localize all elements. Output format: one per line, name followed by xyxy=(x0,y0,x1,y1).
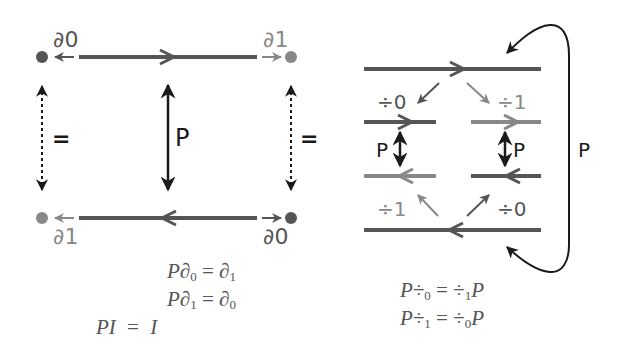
label-bottom-right-d0: ∂0 xyxy=(263,224,288,249)
equation-1: P∂0 = ∂1 xyxy=(88,260,236,288)
equation-4: P÷0 = ÷1P xyxy=(400,279,484,307)
bottom-right-vertex xyxy=(285,212,297,224)
label-top-left-face: ÷0 xyxy=(377,90,406,114)
label-center-p: P xyxy=(175,124,189,152)
equation-2: P∂1 = ∂0 xyxy=(88,288,236,316)
eq1-rhs-sub: 1 xyxy=(230,269,237,284)
label-top-right-d1: ∂1 xyxy=(263,27,288,52)
eq3-equals: = xyxy=(127,315,139,339)
bottom-right-face-arrow xyxy=(467,195,489,216)
bottom-left-face-arrow xyxy=(418,195,438,216)
label-left-equal: = xyxy=(52,126,70,151)
label-bottom-right-face: ÷0 xyxy=(497,197,526,221)
label-bottom-left-d1: ∂1 xyxy=(53,224,78,249)
left-equations: P∂0 = ∂1 P∂1 = ∂0 PI = I xyxy=(88,260,236,338)
eq4-lhs-sub: 0 xyxy=(424,288,431,303)
right-diagram xyxy=(364,25,569,272)
label-right-equal: = xyxy=(300,126,318,151)
eq5-lhs: P÷ xyxy=(400,306,424,330)
bottom-left-vertex xyxy=(36,212,48,224)
label-left-swap-p: P xyxy=(376,138,388,162)
eq1-equals: = xyxy=(202,259,214,283)
eq2-rhs: ∂ xyxy=(219,287,229,311)
eq1-lhs: P∂ xyxy=(167,259,190,283)
eq2-lhs-sub: 1 xyxy=(190,297,197,312)
eq1-lhs-sub: 0 xyxy=(190,269,197,284)
label-top-right-face: ÷1 xyxy=(497,90,526,114)
eq2-rhs-sub: 0 xyxy=(230,297,237,312)
eq2-lhs: P∂ xyxy=(167,287,190,311)
top-left-vertex xyxy=(36,51,48,63)
top-right-face-arrow xyxy=(467,83,489,103)
eq4-rhs-tail: P xyxy=(471,278,484,302)
eq3-lhs: PI xyxy=(96,315,116,339)
eq3-rhs: I xyxy=(150,315,157,339)
right-equations: P÷0 = ÷1P P÷1 = ÷0P xyxy=(400,279,484,335)
eq4-equals: = xyxy=(436,278,448,302)
label-right-swap-p: P xyxy=(513,138,525,162)
label-bottom-left-face: ÷1 xyxy=(377,197,406,221)
label-outer-p: P xyxy=(578,138,590,162)
eq2-equals: = xyxy=(202,287,214,311)
eq5-rhs: ÷ xyxy=(453,306,465,330)
eq1-rhs: ∂ xyxy=(219,259,229,283)
equation-3: PI = I xyxy=(88,316,236,338)
eq5-lhs-sub: 1 xyxy=(424,316,431,331)
left-diagram xyxy=(36,50,297,225)
eq5-equals: = xyxy=(436,306,448,330)
eq5-rhs-tail: P xyxy=(471,306,484,330)
equation-5: P÷1 = ÷0P xyxy=(400,307,484,335)
top-right-vertex xyxy=(285,51,297,63)
label-top-left-d0: ∂0 xyxy=(53,27,78,52)
eq4-lhs: P÷ xyxy=(400,278,424,302)
eq4-rhs: ÷ xyxy=(453,278,465,302)
top-left-face-arrow xyxy=(418,83,439,103)
